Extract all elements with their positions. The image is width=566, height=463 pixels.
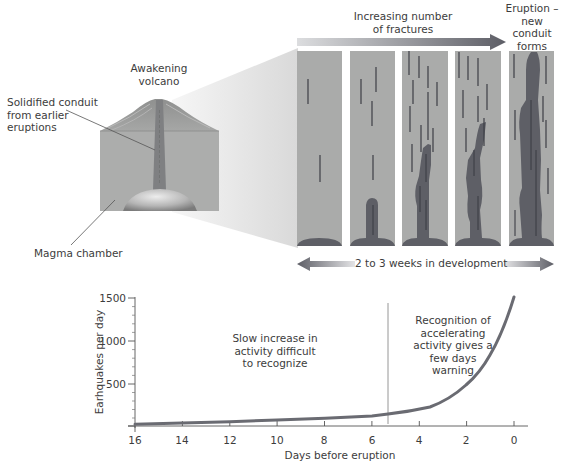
x-tick-12: 12 bbox=[220, 434, 240, 447]
x-tick-6: 6 bbox=[362, 434, 382, 447]
eruption-label: Eruption – new conduit forms bbox=[502, 2, 562, 52]
y-tick-1500: 1500 bbox=[99, 292, 126, 305]
increasing-fractures-arrow bbox=[297, 34, 506, 50]
panel-5 bbox=[509, 51, 554, 246]
x-tick-16: 16 bbox=[125, 434, 145, 447]
eruption-label-line3: conduit bbox=[502, 27, 562, 40]
recognition-line4: few days bbox=[403, 352, 503, 365]
development-duration-label: 2 to 3 weeks in development bbox=[355, 257, 505, 270]
development-arrow-left bbox=[297, 257, 355, 271]
recognition-line1: Recognition of bbox=[403, 314, 503, 327]
eruption-label-line1: Eruption – bbox=[502, 2, 562, 15]
awakening-volcano-label: Awakening volcano bbox=[128, 62, 190, 87]
x-tick-2: 2 bbox=[456, 434, 476, 447]
x-tick-14: 14 bbox=[172, 434, 192, 447]
increasing-fractures-label: Increasing number of fractures bbox=[338, 10, 468, 35]
x-tick-10: 10 bbox=[267, 434, 287, 447]
magma-chamber-label: Magma chamber bbox=[34, 247, 123, 260]
panel-1 bbox=[297, 51, 342, 246]
y-axis-title: Earhquakes per day bbox=[93, 307, 106, 417]
x-tick-8: 8 bbox=[314, 434, 334, 447]
panel-3 bbox=[402, 51, 448, 246]
awakening-volcano-line1: Awakening bbox=[128, 62, 190, 75]
x-axis-title: Days before eruption bbox=[260, 449, 420, 462]
fractures-label-line1: Increasing number bbox=[338, 10, 468, 23]
awakening-volcano-line2: volcano bbox=[128, 75, 190, 88]
recognition-line5: warning bbox=[403, 364, 503, 377]
recognition-line3: activity gives a bbox=[403, 339, 503, 352]
solidified-conduit-label: Solidified conduit from earlier eruption… bbox=[7, 96, 98, 134]
eruption-label-line4: forms bbox=[502, 40, 562, 53]
panel-4 bbox=[455, 51, 501, 246]
development-arrow-right bbox=[504, 257, 554, 271]
slow-annotation-line2: activity difficult bbox=[225, 345, 325, 358]
x-tick-0: 0 bbox=[504, 434, 524, 447]
eruption-label-line2: new bbox=[502, 15, 562, 28]
slow-annotation-line1: Slow increase in bbox=[225, 332, 325, 345]
slow-annotation-line3: to recognize bbox=[225, 357, 325, 370]
x-tick-4: 4 bbox=[409, 434, 429, 447]
recognition-line2: accelerating bbox=[403, 327, 503, 340]
slow-increase-annotation: Slow increase in activity difficult to r… bbox=[225, 332, 325, 370]
fractures-label-line2: of fractures bbox=[338, 23, 468, 36]
conduit-label-line3: eruptions bbox=[7, 121, 98, 134]
recognition-annotation: Recognition of accelerating activity giv… bbox=[403, 314, 503, 377]
fracture-panels bbox=[297, 51, 554, 246]
conduit-label-line2: from earlier bbox=[7, 109, 98, 122]
diagram-canvas bbox=[0, 0, 566, 463]
panel-2 bbox=[350, 51, 395, 246]
conduit-label-line1: Solidified conduit bbox=[7, 96, 98, 109]
